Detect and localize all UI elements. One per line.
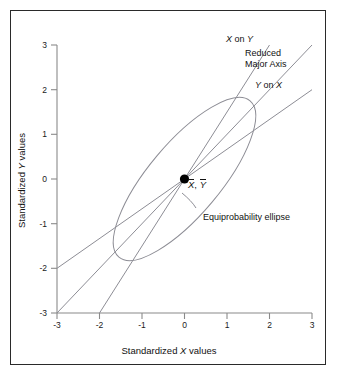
x-axis-title: Standardized X values	[0, 345, 338, 356]
annotation-y-on-x-sep: on	[261, 80, 276, 90]
annotation-x-on-y-sep: on	[232, 34, 247, 44]
centroid-y-bar: Y	[200, 180, 206, 191]
x-axis-title-suffix: values	[186, 345, 216, 356]
x-tick-label-2: 2	[258, 320, 282, 330]
annotation-x-on-y: X on Y	[226, 34, 253, 45]
annotation-rma-line2: Major Axis	[245, 59, 287, 69]
figure-container: -3 -2 -1 0 1 2 3 3 2 1 0 -1 -2 -3 Standa…	[0, 0, 338, 376]
y-axis-ticks	[51, 45, 57, 313]
x-tick-label--1: -1	[130, 320, 154, 330]
x-tick-label-0: 0	[173, 320, 197, 330]
y-axis-title-suffix: values	[16, 133, 27, 163]
y-tick-label-3: 3	[27, 40, 47, 50]
annotation-y-on-x: Y on X	[255, 80, 282, 91]
y-tick-label--3: -3	[27, 308, 47, 318]
y-axis-title: Standardized Y values	[16, 86, 27, 276]
x-tick-label--3: -3	[45, 320, 69, 330]
y-tick-label--2: -2	[27, 263, 47, 273]
y-tick-label-2: 2	[27, 85, 47, 95]
annotation-x-on-y-var2: Y	[247, 34, 253, 44]
annotation-reduced-major-axis: ReducedMajor Axis	[245, 48, 287, 69]
x-tick-label--2: -2	[88, 320, 112, 330]
y-tick-label-0: 0	[27, 174, 47, 184]
y-tick-label-1: 1	[27, 129, 47, 139]
y-tick-label--1: -1	[27, 219, 47, 229]
annotation-rma-line1: Reduced	[245, 48, 281, 58]
annotation-equiprobability-ellipse: Equiprobability ellipse	[203, 212, 290, 223]
y-axis-title-prefix: Standardized	[16, 169, 27, 228]
x-tick-label-3: 3	[300, 320, 324, 330]
x-tick-label-1: 1	[215, 320, 239, 330]
x-axis-title-prefix: Standardized	[121, 345, 180, 356]
x-axis-ticks	[57, 313, 312, 319]
y-axis-title-variable: Y	[16, 163, 27, 169]
annotation-centroid-label: X, Y	[188, 180, 206, 191]
ellipse-leader-line	[182, 193, 196, 208]
centroid-x-bar: X	[188, 180, 194, 191]
annotation-y-on-x-var2: X	[276, 80, 282, 90]
